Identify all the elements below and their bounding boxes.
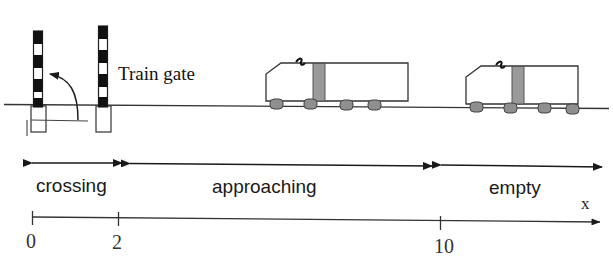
gate-right (96, 26, 111, 132)
train-approaching-body (266, 63, 408, 101)
gate-rotation-arrow (50, 74, 78, 120)
region-brackets (32, 163, 602, 167)
train-empty (466, 62, 579, 114)
gate-right-base (96, 106, 111, 132)
train-gate-diagram: Train gate crossing a (0, 0, 613, 268)
train-approaching-divider (313, 64, 325, 102)
gate-left-base (31, 106, 46, 132)
gate-left (27, 31, 88, 136)
x-axis-line (32, 217, 600, 222)
gate-left-pole (34, 31, 43, 107)
bracket-empty (441, 165, 602, 167)
train-gate-label: Train gate (118, 63, 195, 84)
x-tick-label-2: 2 (112, 231, 122, 253)
bracket-approaching (130, 164, 432, 167)
diagram-canvas: Train gate crossing a (0, 0, 613, 268)
x-tick-label-10: 10 (434, 235, 454, 257)
x-tick-label-0: 0 (26, 230, 36, 252)
region-label-approaching: approaching (212, 176, 317, 197)
train-empty-divider (512, 67, 524, 105)
x-axis-label: x (581, 194, 590, 213)
gate-right-pole (99, 26, 108, 107)
train-approaching (266, 59, 408, 110)
region-label-crossing: crossing (36, 175, 107, 196)
region-label-empty: empty (489, 177, 541, 198)
